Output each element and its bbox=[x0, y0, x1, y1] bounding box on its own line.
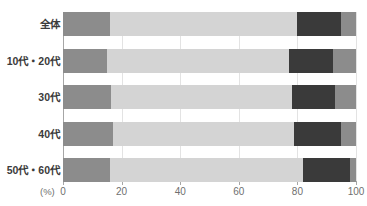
category-label: 40代 bbox=[2, 122, 60, 146]
category-labels: 全体10代・20代30代40代50代・60代 bbox=[0, 12, 60, 182]
bar-segment-3 bbox=[297, 12, 341, 36]
tick-label: 20 bbox=[116, 186, 127, 197]
bar-segment-1 bbox=[63, 122, 113, 146]
bar-segment-3 bbox=[303, 158, 350, 182]
bars-layer bbox=[63, 12, 356, 182]
tick-label: 100 bbox=[348, 186, 365, 197]
bar-segment-2 bbox=[107, 49, 289, 73]
axis-unit-label: (%) bbox=[40, 186, 55, 197]
tick-label: 0 bbox=[60, 186, 66, 197]
bar-segment-4 bbox=[333, 49, 356, 73]
category-label: 50代・60代 bbox=[2, 158, 60, 182]
bar-row bbox=[63, 122, 356, 146]
bar-segment-1 bbox=[63, 85, 111, 109]
gridline bbox=[356, 12, 357, 182]
bar-segment-4 bbox=[350, 158, 356, 182]
category-label: 30代 bbox=[2, 85, 60, 109]
tick-label: 80 bbox=[292, 186, 303, 197]
bar-segment-2 bbox=[110, 12, 298, 36]
bar-segment-3 bbox=[292, 85, 336, 109]
bar-segment-4 bbox=[341, 122, 356, 146]
bar-segment-1 bbox=[63, 12, 110, 36]
tickmark bbox=[356, 181, 357, 185]
bar-segment-1 bbox=[63, 158, 110, 182]
bar-segment-3 bbox=[289, 49, 333, 73]
stacked-bar-chart: 全体10代・20代30代40代50代・60代 (%) 020406080100 bbox=[0, 0, 367, 206]
bar-row bbox=[63, 158, 356, 182]
bar-segment-2 bbox=[110, 158, 303, 182]
tick-label: 60 bbox=[233, 186, 244, 197]
bar-segment-3 bbox=[294, 122, 341, 146]
bar-segment-4 bbox=[341, 12, 356, 36]
bar-segment-2 bbox=[111, 85, 291, 109]
category-label: 全体 bbox=[2, 12, 60, 36]
category-label: 10代・20代 bbox=[2, 49, 60, 73]
bar-row bbox=[63, 85, 356, 109]
bar-segment-4 bbox=[335, 85, 356, 109]
bar-segment-2 bbox=[113, 122, 295, 146]
tick-label: 40 bbox=[175, 186, 186, 197]
bar-segment-1 bbox=[63, 49, 107, 73]
bar-row bbox=[63, 49, 356, 73]
bar-row bbox=[63, 12, 356, 36]
